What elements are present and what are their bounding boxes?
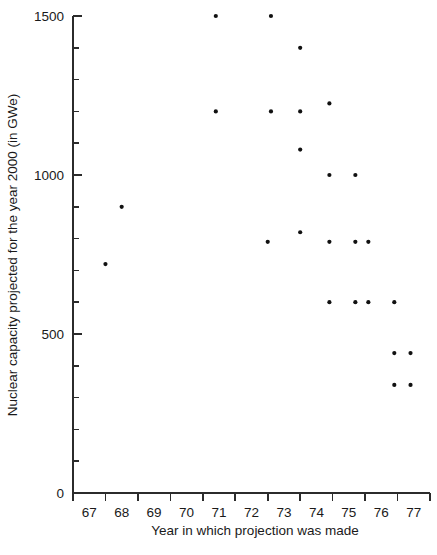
x-tick-label: 67 [82,505,97,520]
nuclear-capacity-scatter-chart: 050010001500 6768697071727374757677 Year… [0,0,437,555]
data-point [366,300,370,304]
x-tick-label: 75 [341,505,356,520]
x-tick-label: 69 [147,505,162,520]
x-tick-label: 72 [244,505,259,520]
x-axis-ticks [73,493,430,501]
data-point [214,109,218,113]
x-tick-label: 70 [179,505,194,520]
y-tick-label: 500 [41,327,64,342]
data-point [214,14,218,18]
data-points-layer [103,14,412,387]
x-tick-label: 73 [276,505,291,520]
x-axis-title: Year in which projection was made [151,523,358,538]
data-point [327,101,331,105]
data-point [103,262,107,266]
data-point [269,14,273,18]
y-tick-label: 1500 [34,9,64,24]
y-tick-label: 0 [56,486,64,501]
y-axis-tick-labels: 050010001500 [34,9,64,501]
data-point [327,240,331,244]
data-point [408,383,412,387]
data-point [327,173,331,177]
x-axis-tick-labels: 6768697071727374757677 [82,505,422,520]
data-point [327,300,331,304]
data-point [366,240,370,244]
scatter-plot-figure: 050010001500 6768697071727374757677 Year… [0,0,437,555]
x-tick-label: 68 [114,505,129,520]
x-tick-label: 77 [406,505,421,520]
data-point [269,109,273,113]
data-point [353,173,357,177]
data-point [298,230,302,234]
data-point [120,205,124,209]
y-axis-title: Nuclear capacity projected for the year … [5,94,20,416]
data-point [392,300,396,304]
data-point [266,240,270,244]
data-point [408,351,412,355]
data-point [392,351,396,355]
y-axis-ticks [73,16,82,493]
data-point [353,240,357,244]
x-tick-label: 71 [212,505,227,520]
x-tick-label: 74 [309,505,325,520]
data-point [353,300,357,304]
x-tick-label: 76 [374,505,389,520]
data-point [392,383,396,387]
axis-group [73,16,430,493]
data-point [298,46,302,50]
y-tick-label: 1000 [34,168,64,183]
data-point [298,147,302,151]
data-point [298,109,302,113]
